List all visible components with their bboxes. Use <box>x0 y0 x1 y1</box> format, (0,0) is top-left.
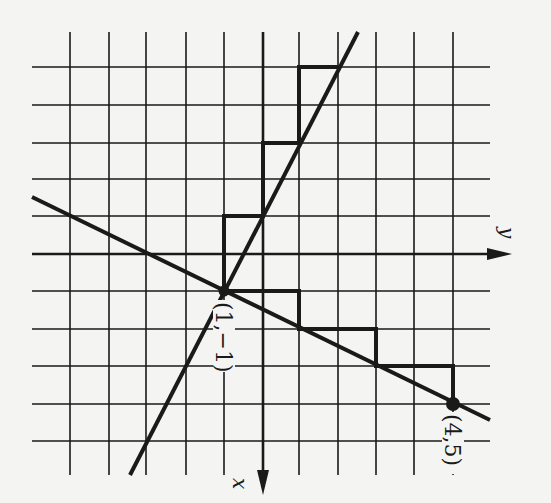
y-axis-arrow-icon <box>487 248 512 260</box>
coordinate-diagram: (1,−1) (4,5) x y <box>0 0 551 503</box>
point-label-1-neg1: (1,−1) <box>211 302 236 373</box>
x-axis-label: x <box>228 478 252 489</box>
y-axis-label: y <box>495 226 519 239</box>
point-1-neg1 <box>219 286 230 297</box>
point-4-5 <box>446 397 460 411</box>
x-axis-arrow-icon <box>257 470 269 495</box>
x-axis <box>257 32 269 495</box>
y-axis <box>32 248 512 260</box>
point-label-4-5: (4,5) <box>440 414 465 466</box>
line-slope-2 <box>32 197 490 420</box>
